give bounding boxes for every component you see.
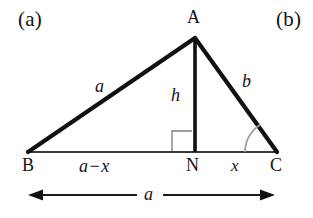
geometry-figure: (a) (b) A B C N a b h a−x x a	[0, 0, 313, 218]
vertex-label-b: B	[22, 156, 34, 174]
vertex-label-a: A	[187, 8, 200, 26]
altitude-label-h: h	[171, 86, 180, 104]
vertex-label-c: C	[270, 156, 282, 174]
side-label-a: a	[95, 77, 104, 95]
panel-label-a: (a)	[18, 9, 42, 30]
segment-label-a-minus-x-lhs: a	[79, 156, 89, 176]
panel-label-b: (b)	[276, 9, 301, 30]
minus-operator-icon: −	[89, 156, 102, 176]
triangle-side-ab	[28, 38, 195, 152]
segment-label-a-minus-x: a−x	[79, 157, 110, 175]
vertex-label-n: N	[186, 156, 199, 174]
figure-canvas	[0, 0, 313, 218]
dimension-label-a: a	[144, 185, 153, 203]
triangle-side-ac	[195, 38, 277, 152]
right-angle-marker	[172, 131, 192, 151]
segment-label-a-minus-x-rhs: x	[101, 156, 110, 176]
arrowhead-left-icon	[28, 190, 43, 201]
side-label-b: b	[242, 72, 251, 90]
arrowhead-right-icon	[260, 190, 275, 201]
segment-label-x: x	[231, 157, 239, 174]
